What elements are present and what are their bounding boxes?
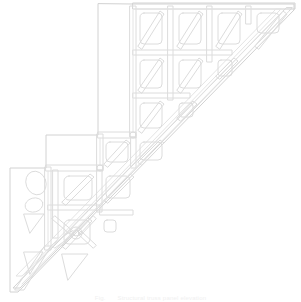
web-vertical-a — [168, 6, 173, 100]
cell-opening-r1c3 — [218, 13, 240, 44]
web-vertical-b — [207, 6, 212, 62]
cell-opening-r3c1 — [140, 103, 162, 128]
cell-opening-r6c2 — [104, 220, 116, 232]
cell-opening-r1c2 — [179, 13, 201, 44]
cell-opening-r2c1 — [140, 60, 162, 88]
web-horizontal-1 — [133, 50, 232, 55]
cell-opening-r1c1 — [140, 13, 162, 44]
web-horizontal-3 — [100, 210, 133, 215]
figure-container: Fig. Structural truss panel elevation — [0, 0, 301, 302]
web-vertical-f — [53, 170, 58, 238]
web-horizontal-2 — [133, 93, 190, 98]
stepped-profile-group — [15, 6, 136, 290]
cell-opening-r4c1 — [106, 142, 128, 162]
cell-opening-r2c2 — [179, 60, 201, 88]
wedge-opening-lower-right — [62, 254, 88, 280]
oval-opening-lower — [23, 196, 44, 214]
oval-openings-group — [22, 168, 88, 280]
vertical-web-group — [53, 6, 251, 238]
diagonal-brace-group — [62, 11, 287, 249]
truss-diagram — [0, 0, 301, 302]
triangular-opening-left — [24, 214, 44, 233]
diagonal-inner-offset-2 — [20, 11, 283, 280]
diagonal-inner-offset-1 — [22, 11, 289, 284]
